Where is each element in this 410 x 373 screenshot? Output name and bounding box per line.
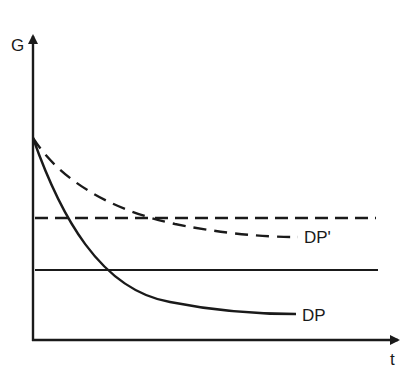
curve-dp-label: DP [302, 306, 326, 325]
y-axis-label: G [11, 36, 24, 55]
x-axis-label: t [390, 350, 395, 369]
diagram: G t DP' DP [0, 0, 410, 373]
curve-dp [33, 138, 296, 314]
curve-dp-prime-label: DP' [304, 228, 331, 247]
curve-dp-prime [33, 138, 298, 237]
